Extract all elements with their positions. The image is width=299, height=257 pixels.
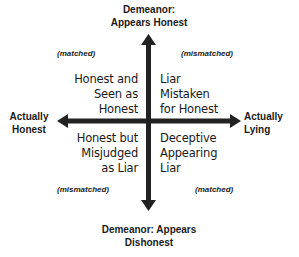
quadrant-line: Deceptive <box>160 131 240 146</box>
quadrant-line: Honest but <box>55 131 138 146</box>
top-right-tag: (mismatched) <box>181 49 233 58</box>
left-label-line: Actually <box>4 110 54 123</box>
top-left-tag: (matched) <box>57 49 95 58</box>
bottom-label-line: Demeanor: Appears <box>89 223 209 236</box>
top-label-line: Appears Honest <box>99 16 199 29</box>
quadrant-line: Liar <box>160 161 240 176</box>
quadrant-line: Mistaken <box>160 87 240 102</box>
quadrant-line: Seen as <box>60 87 138 102</box>
quadrant-bottom-right: Deceptive Appearing Liar <box>160 131 240 176</box>
quadrant-line: for Honest <box>160 102 240 117</box>
arrow-up-icon <box>141 34 156 45</box>
quadrant-top-left: Honest and Seen as Honest <box>60 72 138 117</box>
quadrant-bottom-left: Honest but Misjudged as Liar <box>55 131 138 176</box>
top-axis-label: Demeanor: Appears Honest <box>99 3 199 29</box>
right-label-line: Lying <box>244 123 294 136</box>
quadrant-line: Honest and <box>60 72 138 87</box>
quadrant-line: Honest <box>60 102 138 117</box>
arrow-down-icon <box>141 200 156 211</box>
quadrant-line: Appearing <box>160 146 240 161</box>
quadrant-line: as Liar <box>55 161 138 176</box>
right-label-line: Actually <box>244 110 294 123</box>
top-label-line: Demeanor: <box>99 3 199 16</box>
left-axis-label: Actually Honest <box>4 110 54 136</box>
bottom-left-tag: (mismatched) <box>57 185 109 194</box>
quadrant-top-right: Liar Mistaken for Honest <box>160 72 240 117</box>
bottom-right-tag: (matched) <box>195 185 233 194</box>
quadrant-line: Misjudged <box>55 146 138 161</box>
bottom-label-line: Dishonest <box>89 236 209 249</box>
right-axis-label: Actually Lying <box>244 110 294 136</box>
bottom-axis-label: Demeanor: Appears Dishonest <box>89 223 209 249</box>
left-label-line: Honest <box>4 123 54 136</box>
quadrant-line: Liar <box>160 72 240 87</box>
